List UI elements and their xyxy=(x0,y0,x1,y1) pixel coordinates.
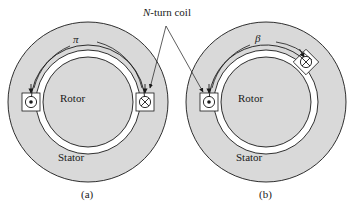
rotor-label-b: Rotor xyxy=(238,92,263,104)
terminal-dot-b xyxy=(203,96,214,107)
rotor-circle-a xyxy=(43,57,133,147)
terminal-cross-b xyxy=(300,56,311,67)
coil-label-text: -turn coil xyxy=(150,6,191,18)
stator-label-a: Stator xyxy=(58,151,84,163)
caption-b: (b) xyxy=(259,188,272,200)
angle-label-b: β xyxy=(255,32,260,44)
leader-line-to-panel-b xyxy=(166,26,203,92)
angle-label-a: π xyxy=(73,33,79,45)
terminal-dot-a xyxy=(25,96,36,107)
panel-b xyxy=(186,22,346,182)
caption-a: (a) xyxy=(81,188,93,200)
rotor-label-a: Rotor xyxy=(60,92,85,104)
stator-label-b: Stator xyxy=(236,151,262,163)
coil-annotation-label: N-turn coil xyxy=(143,6,191,18)
panel-a xyxy=(8,22,168,182)
rotor-circle-b xyxy=(221,57,311,147)
machine-cross-section-figure xyxy=(0,0,353,211)
terminal-cross-a xyxy=(139,96,150,107)
